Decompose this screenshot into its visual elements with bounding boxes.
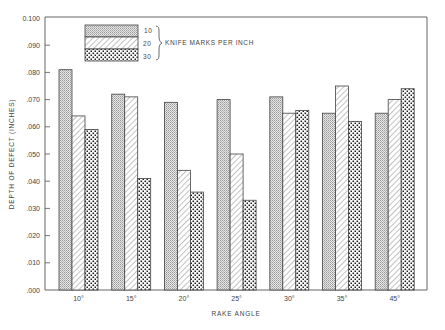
legend-title: KNIFE MARKS PER INCH — [165, 39, 254, 46]
y-tick-label: .040 — [26, 178, 40, 185]
y-tick-label: .000 — [26, 287, 40, 294]
bar-20-1 — [125, 97, 138, 290]
legend-label-10: 10 — [144, 27, 152, 34]
y-tick-label: .050 — [26, 151, 40, 158]
bar-10-3 — [217, 100, 230, 290]
x-axis-title: RAKE ANGLE — [211, 310, 260, 317]
y-tick-label: 0.100 — [22, 15, 40, 22]
y-tick-label: .010 — [26, 259, 40, 266]
bar-30-5 — [349, 121, 362, 290]
bar-10-2 — [164, 102, 177, 290]
legend-swatch-20 — [85, 37, 138, 49]
bar-20-4 — [283, 113, 296, 290]
bar-20-0 — [72, 116, 85, 290]
x-tick-label: 30° — [284, 295, 295, 302]
bar-30-0 — [85, 130, 98, 290]
bar-chart: .000.010.020.030.040.050.060.070.080.090… — [0, 0, 445, 330]
bar-30-2 — [190, 192, 203, 290]
bar-20-6 — [388, 100, 401, 290]
x-tick-label: 45° — [389, 295, 400, 302]
bars — [59, 70, 414, 290]
legend-swatch-10 — [85, 25, 138, 37]
bar-10-5 — [323, 113, 336, 290]
y-tick-label: .060 — [26, 123, 40, 130]
bar-20-5 — [336, 86, 349, 290]
x-tick-label: 15° — [126, 295, 137, 302]
y-tick-label: .030 — [26, 205, 40, 212]
y-axis-title: DEPTH OF DEFECT (INCHES) — [8, 99, 16, 209]
legend-swatch-30 — [85, 49, 138, 61]
bar-20-3 — [230, 154, 243, 290]
y-tick-label: .090 — [26, 42, 40, 49]
bar-10-4 — [270, 97, 283, 290]
x-tick-label: 10° — [73, 295, 84, 302]
bar-30-3 — [243, 200, 256, 290]
y-tick-label: .080 — [26, 69, 40, 76]
legend-label-20: 20 — [143, 40, 151, 47]
x-tick-label: 35° — [337, 295, 348, 302]
legend: 10 20 30 KNIFE MARKS PER INCH — [85, 25, 254, 61]
x-axis: 10°15°20°25°30°35°45° — [73, 295, 400, 302]
bar-20-2 — [177, 170, 190, 290]
bar-30-6 — [401, 89, 414, 290]
x-tick-label: 20° — [179, 295, 190, 302]
bar-30-1 — [138, 178, 151, 290]
bar-10-6 — [375, 113, 388, 290]
legend-brace — [156, 26, 162, 60]
bar-10-1 — [112, 94, 125, 290]
y-tick-label: .070 — [26, 96, 40, 103]
y-axis: .000.010.020.030.040.050.060.070.080.090… — [22, 15, 50, 294]
legend-label-30: 30 — [143, 53, 151, 60]
x-tick-label: 25° — [231, 295, 242, 302]
bar-30-4 — [296, 110, 309, 290]
y-tick-label: .020 — [26, 232, 40, 239]
bar-10-0 — [59, 70, 72, 290]
